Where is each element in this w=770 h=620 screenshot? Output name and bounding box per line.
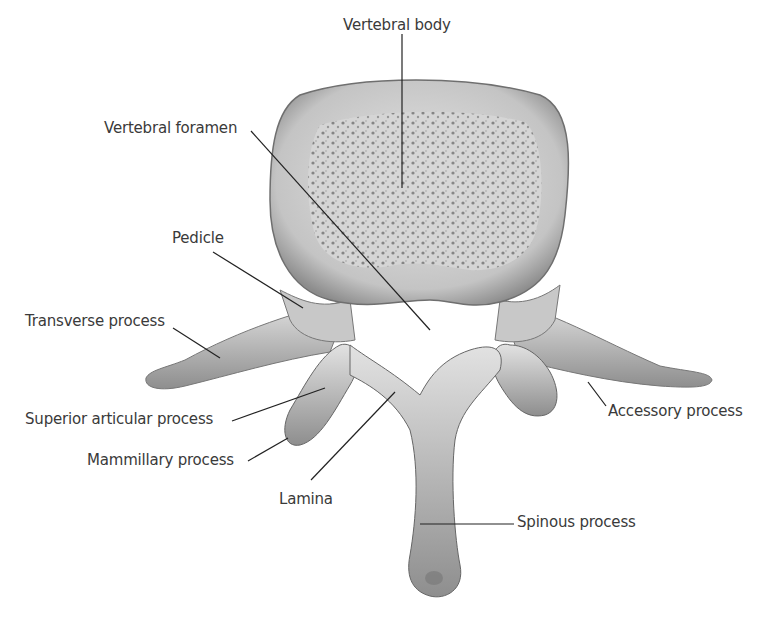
leader-accessory-process	[588, 382, 606, 406]
label-mammillary-process: Mammillary process	[87, 451, 234, 469]
lamina-and-spinous-process	[350, 345, 501, 597]
label-spinous-process: Spinous process	[517, 513, 636, 531]
label-lamina: Lamina	[279, 490, 333, 508]
label-superior-articular-process: Superior articular process	[25, 410, 213, 428]
vertebra-illustration	[0, 0, 770, 620]
superior-articular-process-left	[285, 344, 358, 445]
cancellous-bone	[308, 112, 542, 270]
label-vertebral-foramen: Vertebral foramen	[104, 119, 237, 137]
label-pedicle: Pedicle	[172, 229, 224, 247]
leader-mammillary-process	[248, 438, 288, 461]
label-accessory-process: Accessory process	[608, 402, 743, 420]
label-transverse-process: Transverse process	[25, 312, 165, 330]
label-vertebral-body: Vertebral body	[343, 16, 451, 34]
